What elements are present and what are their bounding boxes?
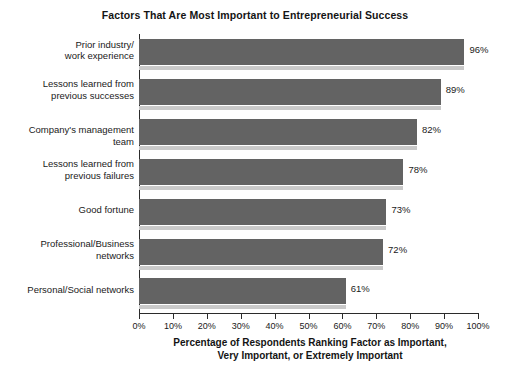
x-axis-tick-label: 0% [132,321,145,331]
bar-value-label: 73% [391,204,410,215]
category-label-line: Personal/Social networks [6,284,134,296]
bar-shadow [139,305,346,309]
x-axis-tick [139,314,140,319]
category-label: Lessons learned fromprevious successes [6,78,134,101]
category-label-line: Professional/Business [6,238,134,250]
category-label: Company's management team [6,124,134,147]
x-axis-tick-label: 60% [333,321,351,331]
x-axis-tick-label: 10% [164,321,182,331]
bar-value-label: 96% [469,44,488,55]
bar-chart: Factors That Are Most Important to Entre… [0,0,510,366]
bar [139,79,441,105]
category-label: Personal/Social networks [6,284,134,296]
chart-title: Factors That Are Most Important to Entre… [0,9,510,21]
x-axis-tick [173,314,174,319]
x-axis-tick-label: 30% [232,321,250,331]
bar-value-label: 89% [446,84,465,95]
bar-row: 82% [139,117,478,155]
bar-row: 72% [139,237,478,275]
x-axis-tick-label: 40% [266,321,284,331]
x-axis-tick [444,314,445,319]
bar [139,278,346,304]
category-label-line: Lessons learned from [6,78,134,90]
x-axis-tick [478,314,479,319]
x-axis-tick-label: 20% [198,321,216,331]
x-axis-title-line-1: Percentage of Respondents Ranking Factor… [120,337,500,350]
x-axis-tick-label: 80% [401,321,419,331]
bar-shadow [139,266,383,270]
x-axis-title-line-2: Very Important, or Extremely Important [120,350,500,363]
category-label-line: networks [6,250,134,262]
bar-row: 61% [139,276,478,314]
bar-shadow [139,106,441,110]
bar-shadow [139,186,403,190]
x-axis-tick [275,314,276,319]
category-label-line: Prior industry/ [6,39,134,51]
category-label-line: Good fortune [6,204,134,216]
category-label: Prior industry/work experience [6,39,134,62]
bar-row: 78% [139,157,478,195]
x-axis-tick-label: 90% [435,321,453,331]
bar-row: 89% [139,77,478,115]
category-label: Lessons learned fromprevious failures [6,158,134,181]
bar-row: 73% [139,197,478,235]
category-label-line: previous failures [6,170,134,182]
bar-value-label: 82% [422,124,441,135]
bar-value-label: 72% [388,244,407,255]
x-axis-tick [410,314,411,319]
bar [139,39,464,65]
x-axis-tick [342,314,343,319]
category-label-line: Company's management team [6,124,134,147]
x-axis-title: Percentage of Respondents Ranking Factor… [120,337,500,362]
x-axis-tick-label: 70% [367,321,385,331]
bar-shadow [139,226,386,230]
category-label-line: previous successes [6,90,134,102]
category-label: Professional/Businessnetworks [6,238,134,261]
bar-shadow [139,66,464,70]
x-axis-tick-label: 100% [466,321,489,331]
x-axis-tick-label: 50% [299,321,317,331]
bar-value-label: 78% [408,164,427,175]
category-label-line: Lessons learned from [6,158,134,170]
bar [139,239,383,265]
x-axis-tick [241,314,242,319]
bar-value-label: 61% [351,283,370,294]
bar [139,199,386,225]
x-axis-tick [207,314,208,319]
bar [139,119,417,145]
bar-row: 96% [139,37,478,75]
category-label: Good fortune [6,204,134,216]
bar-shadow [139,146,417,150]
x-axis-tick [376,314,377,319]
bar [139,159,403,185]
category-label-line: work experience [6,50,134,62]
x-axis-tick [309,314,310,319]
